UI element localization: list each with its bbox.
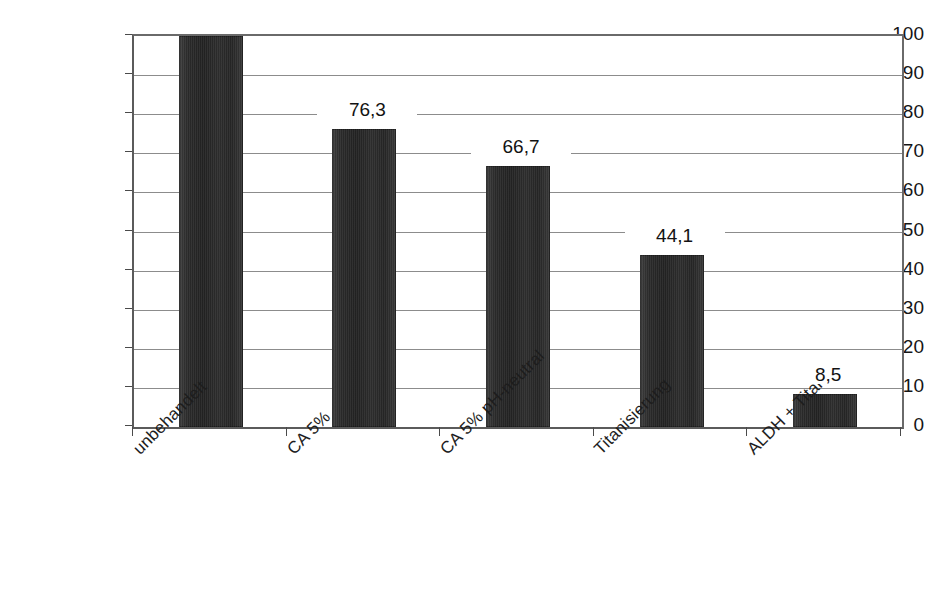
y-axis-tick [125,190,132,191]
bar-value-label: 66,7 [471,137,571,156]
y-axis-tick [125,386,132,387]
y-axis-tick [125,308,132,309]
x-axis-tick [132,427,133,436]
bar-value-label: 76,3 [317,100,417,119]
y-axis-tick [125,230,132,231]
y-axis-tick [125,73,132,74]
y-axis-tick [125,269,132,270]
x-axis-tick [593,427,594,436]
y-axis-tick [125,347,132,348]
y-axis-tick [125,112,132,113]
bar [179,36,243,427]
bar-value-label: 44,1 [625,226,725,245]
y-axis-tick [125,151,132,152]
x-axis-tick [439,427,440,436]
bar-chart-figure: Aldehydgehalt [%] 0102030405060708090100… [0,0,938,606]
x-axis-tick [286,427,287,436]
gridline [134,75,902,76]
y-axis-tick [125,425,132,426]
gridline [134,114,902,115]
x-axis-tick [746,427,747,436]
bar [332,129,396,427]
bar-value-label: 8,5 [778,365,878,384]
y-axis-tick [125,34,132,35]
x-axis-tick [900,427,901,436]
